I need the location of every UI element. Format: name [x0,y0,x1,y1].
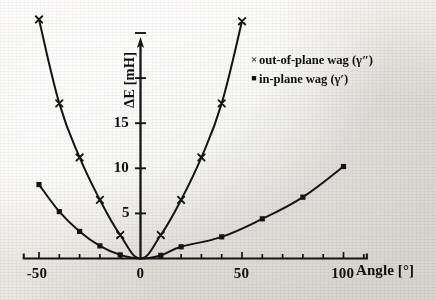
legend-entry-out-of-plane-wag: ×out-of-plane wag (γ″) [249,53,373,68]
data-point-marker [300,195,305,200]
cross-marker-icon: × [249,53,259,65]
data-point-marker [158,232,164,238]
x-tick-label: 0 [136,265,144,282]
data-point-marker [36,182,41,187]
x-axis-title: Angle [°] [356,262,414,279]
data-point-marker [260,216,265,221]
data-point-marker [97,243,102,248]
data-point-marker [77,229,82,234]
legend-label-out-of-plane-wag: out-of-plane wag (γ″) [259,53,373,67]
legend-entry-in-plane-wag: ■in-plane wag (γ′) [249,72,348,87]
legend-label-in-plane-wag: in-plane wag (γ′) [259,72,348,86]
figure: ΔE [mH] Angle [°] 15105 -50050100 ×out-o… [0,0,436,300]
y-axis-title: ΔE [mH] [121,52,138,108]
x-tick-label: 50 [234,265,249,282]
data-point-marker [118,252,123,257]
data-point-marker [158,253,163,258]
data-point-marker [117,232,123,238]
data-point-marker [219,234,224,239]
data-point-marker [178,197,184,203]
x-tick-label: -50 [27,265,47,282]
y-tick-label: 10 [114,159,129,176]
data-point-marker [57,209,62,214]
y-tick-label: 5 [122,204,130,221]
x-tick-label: 100 [331,265,354,282]
y-tick-label: 15 [114,114,129,131]
plot-area [0,0,436,300]
square-marker-icon: ■ [249,73,259,83]
data-point-marker [341,164,346,169]
data-point-marker [97,197,103,203]
data-point-marker [179,244,184,249]
chart-svg [0,0,436,300]
